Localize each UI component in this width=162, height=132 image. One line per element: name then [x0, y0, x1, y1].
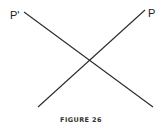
figure-diagram: P' P FIGURE 26 [0, 0, 162, 132]
line-p [38, 10, 145, 107]
label-p-prime: P' [10, 9, 19, 21]
label-p: P [148, 7, 155, 19]
figure-caption: FIGURE 26 [60, 116, 102, 124]
line-p-prime [24, 12, 153, 107]
